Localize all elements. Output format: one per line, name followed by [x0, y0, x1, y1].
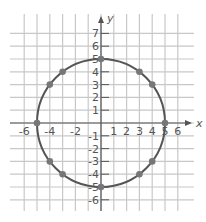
x-tick-label: 6	[174, 125, 181, 138]
y-tick-label: 3	[92, 79, 99, 92]
y-axis-label: y	[106, 12, 114, 25]
point-marker	[34, 120, 41, 127]
x-tick-label: 3	[136, 125, 143, 138]
y-tick-label: -1	[88, 130, 99, 143]
tick-labels: xy-6-4-21234567654321-1-2-3-4-5-6	[19, 12, 203, 207]
x-axis-arrow-icon	[185, 120, 192, 126]
y-tick-label: -4	[88, 168, 99, 181]
point-marker	[149, 158, 156, 165]
point-marker	[98, 184, 105, 191]
point-marker	[59, 69, 66, 76]
point-marker	[162, 120, 169, 127]
x-tick-label: -2	[70, 125, 81, 138]
x-axis-label: x	[195, 117, 203, 130]
x-tick-label: 2	[123, 125, 130, 138]
point-marker	[47, 81, 54, 88]
y-tick-label: -3	[88, 155, 99, 168]
y-axis-arrow-icon	[98, 16, 104, 23]
point-marker	[136, 69, 143, 76]
y-tick-label: 4	[92, 66, 99, 79]
x-tick-label: -4	[44, 125, 55, 138]
x-tick-label: -6	[19, 125, 30, 138]
point-marker	[59, 171, 66, 178]
circle-graph: xy-6-4-21234567654321-1-2-3-4-5-6	[0, 0, 206, 222]
y-tick-label: -6	[88, 194, 99, 207]
point-marker	[136, 171, 143, 178]
point-marker	[47, 158, 54, 165]
y-tick-label: 1	[92, 104, 99, 117]
x-tick-label: 4	[149, 125, 156, 138]
y-tick-label: -2	[88, 143, 99, 156]
point-marker	[149, 81, 156, 88]
y-tick-label: 2	[92, 91, 99, 104]
x-tick-label: 1	[110, 125, 117, 138]
y-tick-label: 6	[92, 40, 99, 53]
point-marker	[98, 56, 105, 63]
y-tick-label: 7	[92, 27, 99, 40]
coordinate-plane: xy-6-4-21234567654321-1-2-3-4-5-6	[0, 0, 206, 222]
